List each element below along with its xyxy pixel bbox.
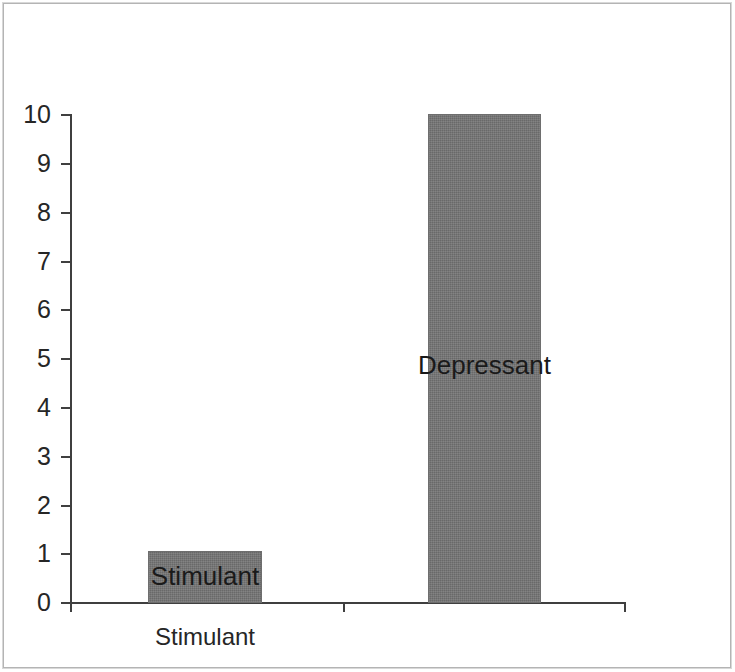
y-axis-tick-label-0: 0 [37, 590, 51, 615]
x-axis-category-label-stimulant: Stimulant [130, 625, 280, 649]
x-axis-tick [624, 602, 626, 612]
y-axis-tick [61, 261, 70, 263]
y-axis-tick [61, 163, 70, 165]
y-axis-tick [61, 456, 70, 458]
y-axis-tick-label-10: 10 [23, 102, 51, 127]
y-axis-tick-label-6: 6 [37, 297, 51, 322]
x-axis-tick [70, 602, 72, 612]
y-axis-line [70, 114, 72, 604]
bar-label-stimulant: Stimulant [148, 563, 262, 589]
y-axis-tick [61, 602, 70, 604]
y-axis-tick-label-5: 5 [37, 346, 51, 371]
bar-label-depressant: Depressant [415, 352, 554, 378]
y-axis-tick [61, 553, 70, 555]
y-axis-tick-label-4: 4 [37, 395, 51, 420]
y-axis-tick [61, 114, 70, 116]
y-axis-tick-label-8: 8 [37, 200, 51, 225]
y-axis-tick [61, 212, 70, 214]
y-axis-tick-label-3: 3 [37, 444, 51, 469]
y-axis-tick [61, 505, 70, 507]
y-axis-tick-label-2: 2 [37, 493, 51, 518]
y-axis-tick [61, 309, 70, 311]
chart-image: 10 9 8 7 6 5 4 3 2 1 0 Stimulant Depress… [0, 0, 735, 672]
y-axis-tick-label-9: 9 [37, 151, 51, 176]
bar-chart-plot-area: 10 9 8 7 6 5 4 3 2 1 0 Stimulant Depress… [0, 0, 735, 672]
y-axis-tick-label-7: 7 [37, 249, 51, 274]
y-axis-tick [61, 358, 70, 360]
y-axis-tick-label-1: 1 [37, 541, 51, 566]
x-axis-tick [343, 602, 345, 612]
y-axis-tick [61, 407, 70, 409]
